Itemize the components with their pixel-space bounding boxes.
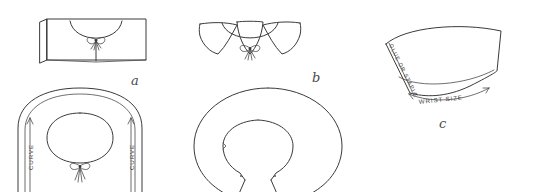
bow-tie-a-pattern (70, 163, 90, 182)
panel-c-cuff-fan: GLUE OR STAPLE WRIST SIZE c (386, 27, 501, 131)
curve-annotation-right: CURVE (128, 118, 135, 192)
panel-b-flared-collar: b (199, 21, 320, 85)
pattern-line-art: a b (0, 0, 540, 192)
split-tick-left (240, 175, 242, 177)
circular-collar-outer-ring (194, 88, 342, 192)
bow-loop-left-ap (70, 163, 80, 169)
bow-tie-b (240, 45, 260, 60)
figure-label-a: a (131, 73, 139, 88)
panel-a-rectangular-collar: a (40, 19, 146, 88)
split-gap-edges (238, 180, 278, 192)
bow-knot (95, 39, 98, 42)
collar-outer-contour (18, 88, 142, 192)
split-tick-right (274, 175, 276, 177)
panel-b-flat-pattern (194, 88, 342, 192)
wrist-size-text: WRIST SIZE (418, 93, 463, 105)
neckline-curve-b (222, 23, 278, 38)
neckline-scoop (70, 21, 122, 38)
curve-label-left-text: CURVE (27, 144, 34, 170)
figure-label-c: c (439, 116, 447, 131)
collar-wing-left (199, 23, 237, 54)
collar-wing-right (263, 22, 301, 54)
illustration-canvas: a b (0, 0, 540, 192)
figure-label-b: b (312, 70, 320, 85)
curve-label-right-text: CURVE (128, 144, 135, 170)
panel-a-flat-pattern: CURVE CURVE (18, 88, 142, 192)
bow-loop-right-ap (80, 163, 90, 169)
wrist-size-measure: WRIST SIZE (409, 88, 489, 105)
collar-left-fold (40, 19, 47, 63)
circular-collar-inner-opening (223, 120, 293, 180)
bow-knot-b (249, 47, 252, 50)
glue-or-staple-text: GLUE OR STAPLE (388, 43, 419, 99)
neck-opening-oval (47, 113, 113, 163)
collar-seam-contour (25, 94, 135, 192)
bow-knot-ap (79, 165, 82, 168)
curve-annotation-left: CURVE (27, 118, 34, 192)
